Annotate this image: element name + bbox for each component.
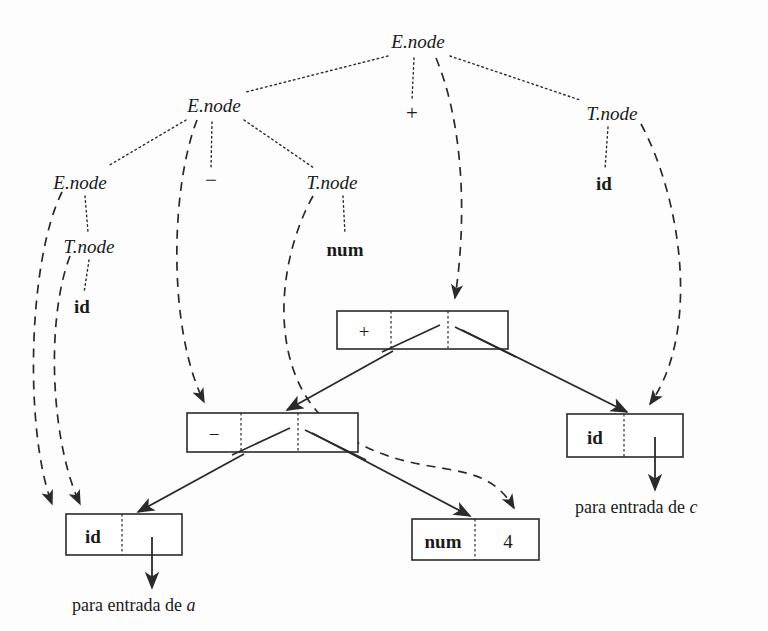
parse-tree-labels: E.node E.node + T.node E.node − T.node i… bbox=[52, 31, 637, 317]
tree-label-t-node-left: T.node bbox=[64, 236, 115, 257]
caption-entry-a: para entrada de a bbox=[72, 595, 195, 615]
tree-edge-t2-num bbox=[343, 196, 345, 234]
dag-box-num-4-value-cell: 4 bbox=[503, 531, 513, 552]
dag-box-id-a[interactable]: id bbox=[66, 514, 182, 555]
dag-box-minus-operator-cell: − bbox=[209, 424, 220, 445]
tree-label-t-node-right: T.node bbox=[587, 103, 638, 124]
tree-label-plus: + bbox=[406, 101, 418, 125]
dag-box-id-a-terminal-cell: id bbox=[85, 526, 101, 547]
dag-box-id-c-frame bbox=[567, 414, 683, 457]
tree-edge-t1-idc bbox=[605, 127, 608, 169]
tree-label-t-node-mid: T.node bbox=[307, 172, 358, 193]
tree-label-e-node-leftleft: E.node bbox=[52, 172, 106, 193]
dag-box-num-4-terminal-cell: num bbox=[425, 531, 462, 552]
dag-link-minus-to-num-4 bbox=[312, 433, 470, 516]
dag-box-id-c-terminal-cell: id bbox=[587, 427, 603, 448]
ptr-curve-t3-to-box-id-a bbox=[54, 256, 80, 504]
tree-edge-e1-minus bbox=[211, 122, 212, 168]
ptr-curve-e0-to-box-plus bbox=[436, 58, 462, 298]
syntax-tree-dag-figure: E.node E.node + T.node E.node − T.node i… bbox=[0, 0, 768, 631]
ptr-curve-e2-to-box-id-a bbox=[33, 192, 62, 504]
caption-entry-c-prefix: para entrada de bbox=[575, 497, 689, 517]
dag-box-minus[interactable]: − bbox=[187, 413, 366, 460]
dag-node-boxes: + − id num bbox=[66, 311, 683, 560]
ptr-curve-t1-to-box-id-c bbox=[641, 124, 681, 404]
ptr-curve-t2-to-box-num-4 bbox=[284, 196, 514, 508]
tree-label-minus: − bbox=[205, 168, 217, 192]
tree-label-num: num bbox=[327, 239, 364, 260]
tree-label-id-a: id bbox=[74, 296, 90, 317]
caption-entry-a-var: a bbox=[186, 595, 195, 615]
dag-link-minus-to-id-a bbox=[138, 454, 244, 512]
tree-label-id-c: id bbox=[596, 173, 612, 194]
dag-box-id-a-frame bbox=[66, 514, 182, 555]
caption-entry-c-var: c bbox=[689, 497, 697, 517]
dag-box-num-4[interactable]: num 4 bbox=[412, 519, 539, 560]
tree-edge-t3-ida bbox=[84, 260, 89, 293]
tree-edge-e0-e1 bbox=[246, 56, 388, 92]
dag-box-plus[interactable]: + bbox=[337, 311, 516, 357]
caption-entry-a-prefix: para entrada de bbox=[72, 595, 186, 615]
tree-label-e-node-root: E.node bbox=[390, 31, 444, 52]
dag-box-plus-operator-cell: + bbox=[359, 321, 370, 342]
tree-label-e-node-left: E.node bbox=[186, 95, 240, 116]
tree-edge-e0-t1 bbox=[450, 56, 580, 100]
tree-edge-e2-t3 bbox=[85, 196, 88, 232]
dag-link-plus-to-minus bbox=[287, 351, 393, 410]
dag-box-id-c[interactable]: id bbox=[567, 414, 683, 457]
ptr-curve-e1-to-box-minus bbox=[177, 120, 204, 402]
tree-edge-e1-e2 bbox=[108, 120, 186, 166]
caption-entry-c: para entrada de c bbox=[575, 497, 697, 517]
tree-edge-e1-t2 bbox=[244, 120, 314, 168]
dag-link-plus-to-id-c bbox=[462, 330, 627, 412]
tree-edge-e0-plus bbox=[412, 58, 414, 100]
figure-canvas: E.node E.node + T.node E.node − T.node i… bbox=[0, 0, 768, 631]
